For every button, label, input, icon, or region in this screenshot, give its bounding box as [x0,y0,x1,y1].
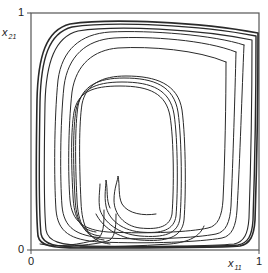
x-axis-label-main: x [228,257,234,269]
trajectory-inner-2 [74,82,178,236]
trajectory-floor-1 [40,210,104,246]
trajectory-mid-3 [69,48,226,233]
x-tick-label-left: 0 [28,256,34,267]
y-axis-label-main: x [2,26,8,38]
x-tick-label-right: 1 [256,256,262,267]
phase-portrait-plot [0,0,268,273]
trajectory-mid-1 [55,32,244,243]
trajectory-inner-3 [76,78,182,240]
y-axis-label-sub: 21 [9,33,17,40]
y-tick-label-bottom: 0 [18,244,24,255]
x-axis-label: x11 [228,258,242,271]
x-axis-label-sub: 11 [235,264,242,271]
trajectory-inner-1 [72,86,174,232]
y-tick-label-top: 1 [18,7,24,18]
y-axis-label: x21 [2,27,16,40]
trajectory-mid-2 [61,38,236,239]
trajectories [36,21,258,248]
